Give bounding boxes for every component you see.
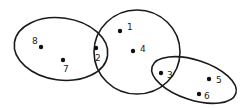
point-dot — [159, 71, 163, 75]
point-dot — [94, 46, 98, 50]
point-dot — [131, 49, 135, 53]
point-dot — [61, 58, 65, 62]
points: 87214356 — [32, 22, 222, 101]
point-label: 3 — [167, 70, 173, 80]
set-right-outline — [146, 47, 242, 108]
point-5: 5 — [207, 75, 222, 85]
point-2: 2 — [94, 46, 101, 63]
point-1: 1 — [118, 22, 133, 33]
point-label: 5 — [216, 75, 222, 85]
point-4: 4 — [131, 44, 146, 54]
point-8: 8 — [32, 36, 43, 49]
point-dot — [197, 92, 201, 96]
point-3: 3 — [159, 70, 173, 80]
point-dot — [207, 77, 211, 81]
point-label: 8 — [32, 36, 38, 46]
point-6: 6 — [197, 91, 210, 101]
point-dot — [118, 29, 122, 33]
set-diagram: 87214356 — [0, 0, 249, 108]
point-label: 6 — [204, 91, 210, 101]
point-label: 7 — [63, 64, 69, 74]
point-7: 7 — [61, 58, 69, 74]
set-middle-outline — [94, 10, 180, 94]
point-dot — [39, 45, 43, 49]
point-label: 4 — [140, 44, 146, 54]
point-label: 2 — [95, 53, 101, 63]
point-label: 1 — [127, 22, 133, 32]
